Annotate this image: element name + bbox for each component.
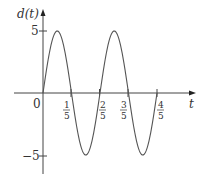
y-tick-label-5: 5 [31, 24, 39, 38]
y-axis-label: d(t) [17, 7, 39, 21]
chart: d(t) 5 −5 0 t 1 5 2 5 3 5 4 5 [0, 0, 208, 174]
svg-text:3: 3 [121, 100, 127, 110]
x-tick-label-4: 4 5 [157, 100, 164, 121]
svg-text:5: 5 [100, 111, 106, 121]
svg-text:5: 5 [64, 111, 70, 121]
origin-label: 0 [33, 97, 41, 111]
x-axis-label: t [189, 97, 194, 111]
svg-text:4: 4 [158, 100, 164, 110]
x-axis-arrow-icon [189, 91, 196, 96]
svg-text:5: 5 [121, 111, 127, 121]
svg-text:1: 1 [64, 100, 70, 110]
x-tick-label-2: 2 5 [99, 100, 106, 121]
x-tick-label-3: 3 5 [120, 100, 127, 121]
svg-text:2: 2 [100, 100, 106, 110]
y-tick-label-neg5: −5 [22, 149, 40, 163]
y-axis-arrow-icon [41, 9, 46, 16]
x-tick-label-1: 1 5 [63, 100, 70, 121]
svg-text:5: 5 [158, 111, 164, 121]
